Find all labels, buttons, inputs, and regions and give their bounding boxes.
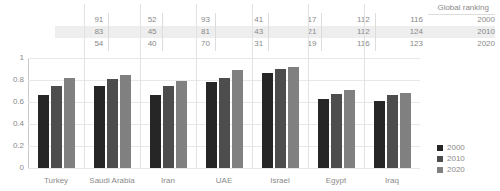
x-axis-label: Israel [252,176,308,186]
legend-item: 2020 [437,165,465,174]
y-axis-tick-label: 0 [20,162,24,174]
bar [150,95,161,168]
table-cell: 54 [55,38,108,50]
x-axis-label: Saudi Arabia [84,176,140,186]
bar [374,101,385,168]
table-cell: 21 [268,26,321,38]
bar [262,73,273,168]
legend-swatch [437,145,443,151]
legend-label: 2020 [447,165,465,174]
table-row-label: 2000 [428,14,500,26]
table-cell: 124 [375,26,428,38]
table-cell: 123 [375,38,428,50]
legend-swatch [437,156,443,162]
bar [288,67,299,168]
table-cell: 112 [321,14,374,26]
bar-group [140,58,196,168]
table-cell: 112 [321,26,374,38]
bar [107,79,118,168]
legend-swatch [437,167,443,173]
bar [400,93,411,168]
table-row: 83458143211121242010 [0,26,495,38]
grouped-bar-chart: 00.20.40.60.81 TurkeySaudi ArabiaIranUAE… [0,54,420,191]
bar-group [308,58,364,168]
gridline: 0 [28,168,420,169]
table-cell: 93 [162,14,215,26]
table-cell: 52 [108,14,161,26]
bar-group [84,58,140,168]
y-axis-tick-label: 0.2 [13,140,24,152]
x-axis-label: UAE [196,176,252,186]
table-cell: 43 [215,26,268,38]
bar [219,78,230,168]
plot-area: 00.20.40.60.81 TurkeySaudi ArabiaIranUAE… [28,58,420,168]
table-header-label: Global ranking [437,3,489,13]
table-row: 91529341171121162000 [0,14,495,26]
legend-label: 2010 [447,154,465,163]
legend-label: 2000 [447,143,465,152]
bar-group [196,58,252,168]
bar-group [28,58,84,168]
bar [275,69,286,168]
bar [387,95,398,168]
bar [344,90,355,168]
bar [120,75,131,169]
bar [318,99,329,168]
bar [176,81,187,168]
legend-item: 2000 [437,143,465,152]
bar [232,70,243,168]
table-row: 54407031191161232020 [0,38,495,50]
bar [51,86,62,169]
table-cell: 31 [215,38,268,50]
bar [38,95,49,168]
bar [163,86,174,169]
table-cell: 81 [162,26,215,38]
table-cell: 45 [108,26,161,38]
bar-group [364,58,420,168]
bar [94,86,105,169]
table-cell: 40 [108,38,161,50]
y-axis-tick-label: 0.4 [13,118,24,130]
table-cell: 116 [321,38,374,50]
y-axis-tick-label: 0.8 [13,74,24,86]
y-axis-tick-label: 1 [20,52,24,64]
legend-item: 2010 [437,154,465,163]
table-cell: 91 [55,14,108,26]
bar [331,94,342,168]
chart-legend: 200020102020 [437,143,465,176]
x-axis-label: Iran [140,176,196,186]
y-axis-tick-label: 0.6 [13,96,24,108]
global-ranking-table: Global ranking 9152934117112116200083458… [0,0,495,54]
x-axis-label: Iraq [364,176,420,186]
table-cell: 116 [375,14,428,26]
bar-group [252,58,308,168]
bar [206,82,217,168]
table-row-label: 2010 [428,26,500,38]
table-cell: 19 [268,38,321,50]
bar [64,78,75,168]
table-cell: 17 [268,14,321,26]
x-axis-label: Egypt [308,176,364,186]
table-row-label: 2020 [428,38,500,50]
table-cell: 41 [215,14,268,26]
x-axis-label: Turkey [28,176,84,186]
table-cell: 83 [55,26,108,38]
table-cell: 70 [162,38,215,50]
